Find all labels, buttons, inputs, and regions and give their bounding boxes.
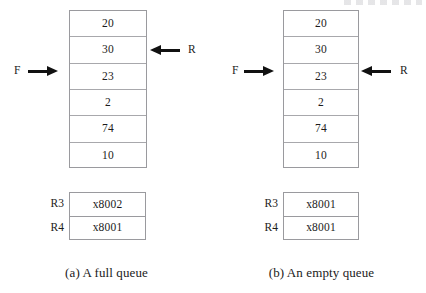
rear-pointer-label: R [188,44,196,56]
queue-cell: 10 [284,143,358,169]
queue-cell: 30 [70,37,146,63]
register-row: R3 x8002 [69,192,146,216]
panel-full-queue: 20 30 23 2 74 10 F R R3 x8002 R4 [0,0,213,293]
arrow-left-icon [150,45,180,56]
register-row: R4 x8001 [283,216,359,240]
queue-cell: 20 [284,11,358,37]
register-value: x8001 [283,216,359,240]
register-box-full: R3 x8002 R4 x8001 [69,192,146,240]
register-row: R4 x8001 [69,216,146,240]
queue-cell: 23 [70,64,146,90]
queue-cell: 20 [70,11,146,37]
panel-caption-full: (a) A full queue [0,266,213,279]
register-value: x8001 [283,192,359,216]
register-name: R3 [51,198,64,210]
queue-cell: 2 [284,90,358,116]
queue-cell: 74 [284,116,358,142]
queue-table-full: 20 30 23 2 74 10 [69,10,147,168]
queue-cell: 10 [70,143,146,169]
queue-cell: 74 [70,116,146,142]
register-name: R3 [265,198,278,210]
queue-cell: 2 [70,90,146,116]
arrow-left-icon [361,66,391,77]
arrow-right-icon [244,66,274,77]
front-pointer-full: F [14,64,58,78]
rear-pointer-empty: R [361,64,408,78]
queue-cell: 30 [284,37,358,63]
front-pointer-label: F [14,65,20,77]
panel-caption-empty: (b) An empty queue [215,266,426,279]
rear-pointer-label: R [400,65,408,77]
register-box-empty: R3 x8001 R4 x8001 [283,192,359,240]
arrow-right-icon [28,66,58,77]
queue-figure: 20 30 23 2 74 10 F R R3 x8002 R4 [0,0,426,293]
panel-empty-queue: 20 30 23 2 74 10 F R R3 x8001 R4 [213,0,426,293]
register-name: R4 [265,222,278,234]
queue-table-empty: 20 30 23 2 74 10 [283,10,359,168]
register-name: R4 [51,222,64,234]
register-value: x8002 [69,192,146,216]
front-pointer-empty: F [232,64,274,78]
register-value: x8001 [69,216,146,240]
front-pointer-label: F [232,65,238,77]
rear-pointer-full: R [150,43,196,57]
register-row: R3 x8001 [283,192,359,216]
queue-cell: 23 [284,64,358,90]
